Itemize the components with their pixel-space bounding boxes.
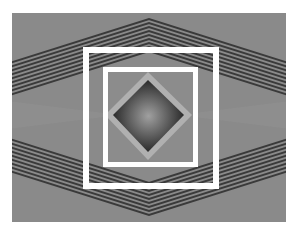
illusion-artwork [0, 0, 298, 226]
center-region [103, 67, 198, 166]
